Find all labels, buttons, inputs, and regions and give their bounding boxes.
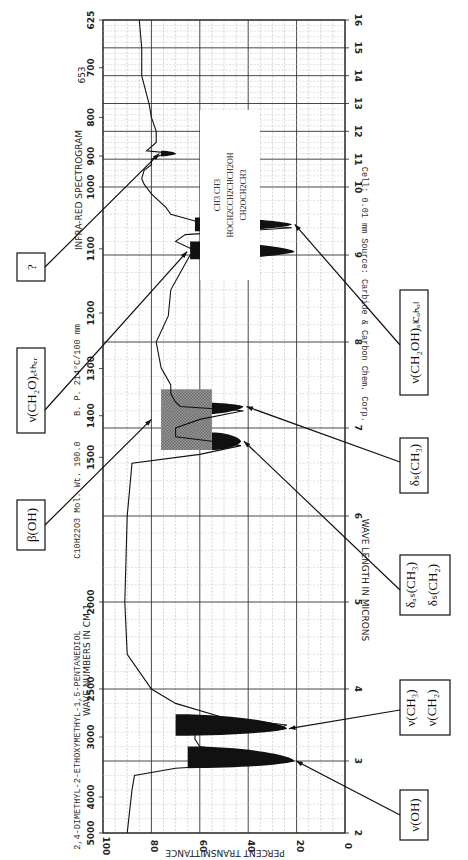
svg-text:800: 800 [86, 108, 96, 127]
svg-text:δₐₛ(CH₃): δₐₛ(CH₃) [403, 562, 418, 608]
svg-text:100: 100 [101, 837, 111, 856]
svg-text:ν(CH₂O)ₑₜₕₑᵣ: ν(CH₂O)ₑₜₕₑᵣ [24, 357, 39, 422]
svg-text:INFRA-RED SPECTROGRAM: INFRA-RED SPECTROGRAM [74, 130, 84, 250]
svg-text:δₛ(CH₃): δₛ(CH₃) [407, 444, 422, 486]
svg-text:20: 20 [295, 840, 305, 853]
svg-text:1300: 1300 [86, 356, 96, 381]
svg-text:11: 11 [353, 153, 363, 166]
svg-text:14: 14 [353, 69, 363, 82]
svg-text:5000: 5000 [86, 820, 96, 845]
svg-text:13: 13 [353, 97, 363, 110]
svg-text:ν(CH₃): ν(CH₃) [403, 689, 418, 726]
svg-text:3000: 3000 [86, 724, 96, 749]
svg-text:15: 15 [353, 42, 363, 55]
svg-text:ν(CH₂OH)ₐₗcₒₕₒₗ: ν(CH₂OH)ₐₗcₒₕₒₗ [407, 302, 422, 384]
svg-text:1500: 1500 [86, 445, 96, 470]
svg-text:ν(OH): ν(OH) [407, 798, 422, 831]
svg-text:WAVE LENGTH IN MICRONS: WAVE LENGTH IN MICRONS [360, 519, 370, 642]
svg-text:0: 0 [343, 843, 353, 849]
svg-text:16: 16 [353, 14, 363, 27]
svg-text:653: 653 [77, 66, 87, 83]
svg-text:C10H22O3 Mol. Wt. 190.0: C10H22O3 Mol. Wt. 190.0 [73, 441, 83, 558]
svg-text:?: ? [24, 264, 39, 270]
svg-text:700: 700 [86, 58, 96, 77]
svg-text:1400: 1400 [86, 403, 96, 428]
svg-text:CH3 CH3: CH3 CH3 [213, 179, 222, 211]
svg-text:δₛ(CH₂): δₛ(CH₂) [425, 564, 440, 606]
svg-text:HOCH2CCH2CHCH2OH: HOCH2CCH2CHCH2OH [226, 152, 235, 237]
svg-text:900: 900 [86, 147, 96, 166]
svg-text:1000: 1000 [86, 174, 96, 199]
svg-text:Cell: 0.01 mm: Cell: 0.01 mm [359, 167, 369, 233]
svg-text:3: 3 [353, 758, 363, 764]
svg-text:4: 4 [353, 686, 363, 692]
svg-text:1200: 1200 [86, 300, 96, 325]
svg-text:ν(CH₂): ν(CH₂) [424, 689, 439, 726]
chart-texts: 2,4-DIMETHYL-2-ETHOXYMETHYL-1,5-PENTANED… [73, 66, 370, 858]
svg-text:CH2OCH2CH3: CH2OCH2CH3 [239, 169, 248, 220]
svg-text:WAVE NUMBERS IN CM-1: WAVE NUMBERS IN CM-1 [82, 604, 92, 716]
svg-text:PERCENT TRANSMITTANCE: PERCENT TRANSMITTANCE [165, 848, 285, 858]
svg-text:80: 80 [149, 840, 159, 853]
svg-text:4000: 4000 [86, 784, 96, 809]
svg-text:7: 7 [353, 425, 363, 431]
svg-text:2: 2 [353, 830, 363, 836]
svg-text:β(OH): β(OH) [24, 508, 39, 542]
svg-text:12: 12 [353, 125, 363, 138]
svg-text:625: 625 [86, 11, 96, 30]
svg-text:1100: 1100 [86, 236, 96, 261]
svg-text:Source: Carbide & Carbon Chem.: Source: Carbide & Carbon Chem. Corp. [359, 238, 369, 422]
ir-spectrum-chart: 0204060801002345678910111213141516500040… [0, 0, 468, 860]
